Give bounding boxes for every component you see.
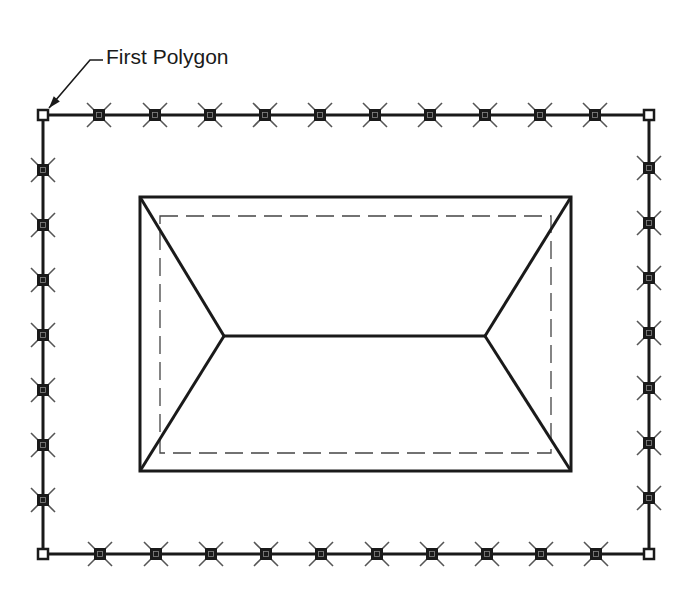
hip-roof-plan xyxy=(140,197,571,471)
corner-vertex-marker xyxy=(38,110,48,120)
roof-outline xyxy=(140,197,571,471)
first-polygon-label: First Polygon xyxy=(106,45,229,69)
hip-line xyxy=(485,197,571,336)
hip-line xyxy=(485,336,571,471)
hip-line xyxy=(140,197,224,336)
hip-line xyxy=(140,336,224,471)
drawing-canvas xyxy=(0,0,698,611)
annotation-leader-arrow xyxy=(49,60,103,108)
corner-vertex-marker xyxy=(38,549,48,559)
corner-vertex-marker xyxy=(644,110,654,120)
corner-vertex-marker xyxy=(644,549,654,559)
